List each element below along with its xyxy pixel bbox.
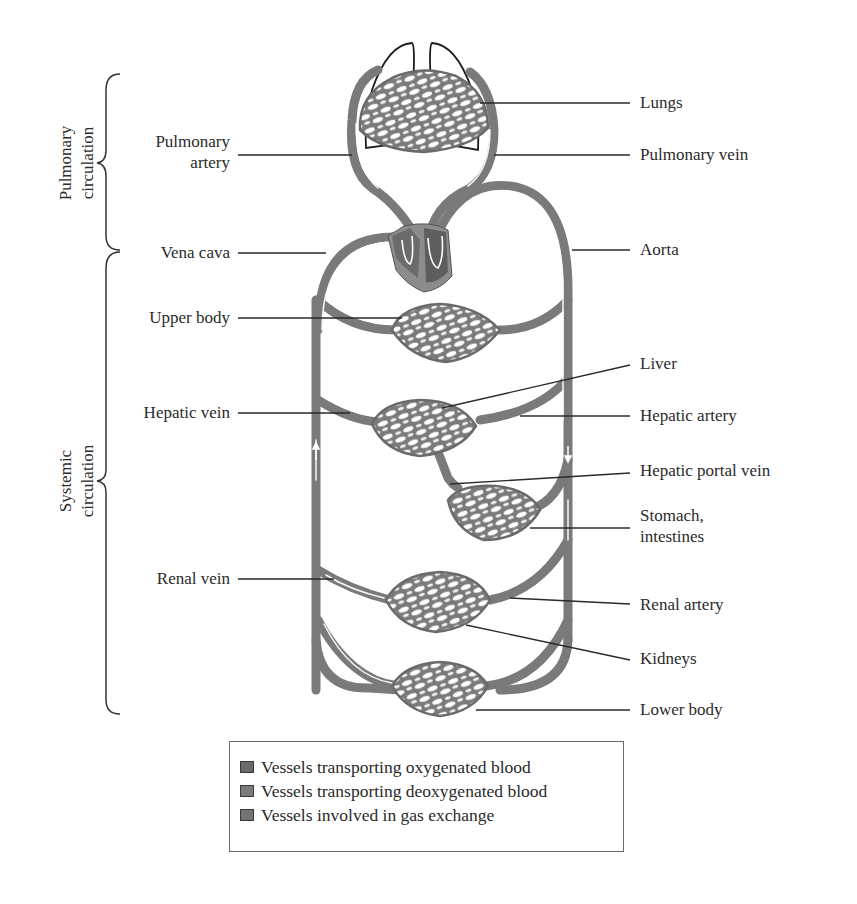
pulmonary-circulation-title: Pulmonary circulation <box>55 103 101 223</box>
label-pulmonary-artery: Pulmonary artery <box>100 131 230 173</box>
pulmonary-title-line2: circulation <box>77 103 99 223</box>
legend-swatch-gas-exchange <box>240 809 254 821</box>
legend-label-oxygenated: Vessels transporting oxygenated blood <box>261 757 531 778</box>
label-upper-body: Upper body <box>100 307 230 328</box>
label-lower-body: Lower body <box>640 699 723 720</box>
liver-capillaries <box>372 400 476 456</box>
upper-body-capillaries <box>392 304 500 362</box>
label-hepatic-vein: Hepatic vein <box>100 402 230 423</box>
heart-icon <box>388 224 452 292</box>
systemic-title-line1: Systemic <box>55 421 77 541</box>
label-lungs: Lungs <box>640 92 683 113</box>
legend-item-gas-exchange: Vessels involved in gas exchange <box>240 803 623 827</box>
label-stomach-line2: intestines <box>640 526 704 547</box>
lung-capillaries <box>360 70 488 152</box>
lower-body-capillaries <box>392 662 488 716</box>
label-hepatic-artery: Hepatic artery <box>640 405 737 426</box>
label-kidneys: Kidneys <box>640 648 697 669</box>
pulmonary-title-line1: Pulmonary <box>55 103 77 223</box>
legend-swatch-oxygenated <box>240 761 254 773</box>
legend: Vessels transporting oxygenated blood Ve… <box>229 741 624 852</box>
label-vena-cava: Vena cava <box>100 242 230 263</box>
capillary-beds <box>360 70 540 716</box>
legend-swatch-deoxygenated <box>240 785 254 797</box>
label-stomach-intestines: Stomach, intestines <box>640 505 704 547</box>
label-pulmonary-artery-line2: artery <box>100 152 230 173</box>
stomach-capillaries <box>448 486 540 540</box>
label-renal-artery: Renal artery <box>640 594 724 615</box>
label-pulmonary-vein: Pulmonary vein <box>640 144 748 165</box>
legend-item-deoxygenated: Vessels transporting deoxygenated blood <box>240 779 623 803</box>
systemic-title-line2: circulation <box>77 421 99 541</box>
systemic-circulation-title: Systemic circulation <box>55 421 101 541</box>
legend-label-deoxygenated: Vessels transporting deoxygenated blood <box>261 781 547 802</box>
legend-label-gas-exchange: Vessels involved in gas exchange <box>261 805 494 826</box>
legend-item-oxygenated: Vessels transporting oxygenated blood <box>240 755 623 779</box>
label-renal-vein: Renal vein <box>100 568 230 589</box>
label-pulmonary-artery-line1: Pulmonary <box>100 131 230 152</box>
kidney-capillaries <box>386 572 490 632</box>
label-liver: Liver <box>640 353 677 374</box>
label-stomach-line1: Stomach, <box>640 505 704 526</box>
label-hepatic-portal-vein: Hepatic portal vein <box>640 460 770 481</box>
label-aorta: Aorta <box>640 239 679 260</box>
